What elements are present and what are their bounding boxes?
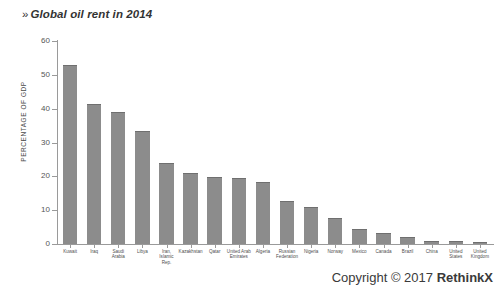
copyright-text: Copyright © 2017	[332, 270, 437, 285]
bar	[449, 241, 463, 244]
bar	[87, 104, 101, 244]
x-axis-tick-label: Qatar	[203, 249, 227, 254]
x-axis-tick-label: Algeria	[251, 249, 275, 254]
x-axis-tick-label: Nigeria	[299, 249, 323, 254]
bar	[400, 237, 414, 244]
x-axis-tick	[142, 245, 143, 248]
x-axis-tick	[408, 245, 409, 248]
y-axis-tick-label: 0	[4, 240, 50, 248]
x-axis-tick	[287, 245, 288, 248]
bar	[473, 242, 487, 244]
copyright-notice: Copyright © 2017 RethinkX	[332, 270, 493, 285]
bar	[376, 233, 390, 245]
y-axis-tick	[52, 41, 57, 42]
bar-series	[58, 41, 492, 244]
x-axis-tick	[263, 245, 264, 248]
brand-name: RethinkX	[437, 270, 493, 285]
x-axis-tick	[311, 245, 312, 248]
x-axis-tick-label: Iraq	[82, 249, 106, 254]
y-axis-tick	[52, 176, 57, 177]
y-axis-tick-label: 40	[4, 105, 50, 113]
x-axis-tick-label: United Kingdom	[468, 249, 492, 260]
bar	[63, 65, 77, 244]
x-axis-tick-label: Saudi Arabia	[106, 249, 130, 260]
x-axis-tick-label: Mexico	[347, 249, 371, 254]
y-axis-tick	[52, 244, 57, 245]
x-axis-tick-label: Kuwait	[58, 249, 82, 254]
bar	[232, 178, 246, 244]
bar	[328, 218, 342, 244]
x-axis-tick	[480, 245, 481, 248]
x-axis-tick-label: Canada	[371, 249, 395, 254]
x-axis-tick	[70, 245, 71, 248]
bar	[111, 112, 125, 244]
x-axis-tick-label: Norway	[323, 249, 347, 254]
x-axis-tick	[432, 245, 433, 248]
y-axis-tick-label: 60	[4, 37, 50, 45]
x-axis-tick	[384, 245, 385, 248]
bar	[183, 173, 197, 244]
x-axis-tick	[456, 245, 457, 248]
x-axis-tick	[359, 245, 360, 248]
x-axis-tick	[167, 245, 168, 248]
y-axis-tick	[52, 143, 57, 144]
x-axis-tick-label: United Arab Emirates	[227, 249, 251, 260]
bar	[424, 241, 438, 244]
bar	[352, 229, 366, 244]
bar	[304, 207, 318, 244]
bar	[159, 163, 173, 244]
x-axis-tick	[94, 245, 95, 248]
y-axis-tick	[52, 75, 57, 76]
y-axis-tick	[52, 210, 57, 211]
bar	[280, 201, 294, 244]
x-axis-tick-label: Kazakhstan	[179, 249, 203, 254]
x-axis-tick-label: Libya	[130, 249, 154, 254]
y-axis-tick-label: 50	[4, 71, 50, 79]
x-axis-tick-label: United States	[444, 249, 468, 260]
x-axis-tick-label: China	[420, 249, 444, 254]
x-axis-tick-label: Russian Federation	[275, 249, 299, 260]
x-axis-tick	[239, 245, 240, 248]
bar	[207, 177, 221, 244]
y-axis-tick-label: 30	[4, 139, 50, 147]
x-axis-tick	[335, 245, 336, 248]
bar	[256, 182, 270, 244]
x-axis-tick	[215, 245, 216, 248]
y-axis-tick-label: 10	[4, 206, 50, 214]
x-axis-tick-label: Iran, Islamic Rep.	[154, 249, 178, 265]
x-axis-tick	[118, 245, 119, 248]
bar	[135, 131, 149, 244]
y-axis-tick-label: 20	[4, 172, 50, 180]
y-axis-tick	[52, 109, 57, 110]
x-axis-tick-label: Brazil	[396, 249, 420, 254]
x-axis-tick	[191, 245, 192, 248]
y-axis-tick-labels: 0102030405060	[0, 0, 50, 290]
